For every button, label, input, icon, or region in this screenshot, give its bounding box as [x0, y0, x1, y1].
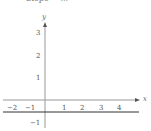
- x-tick-label: 4: [117, 105, 121, 112]
- x-tick-label: 1: [62, 105, 66, 112]
- x-tick-label: 3: [99, 105, 103, 112]
- x-tick-label: −2: [7, 105, 17, 112]
- y-axis-label: y: [42, 14, 46, 21]
- x-axis-arrow-icon: [135, 98, 140, 102]
- x-axis-label: x: [143, 96, 147, 103]
- y-tick-label: 3: [36, 30, 40, 37]
- x-tick-label: −1: [25, 105, 35, 112]
- y-axis-arrow-icon: [43, 22, 47, 27]
- coordinate-plane: [0, 0, 151, 131]
- y-tick-label: −1: [30, 120, 40, 127]
- y-tick-label: 1: [36, 75, 40, 82]
- y-tick-label: 2: [36, 53, 40, 60]
- x-tick-label: 2: [80, 105, 84, 112]
